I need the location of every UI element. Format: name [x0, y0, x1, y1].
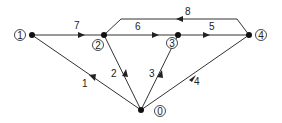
edge-4 — [141, 35, 249, 110]
node-2-label: 2 — [95, 40, 101, 51]
edge-5-label: 5 — [209, 21, 215, 32]
edge-4-label: 4 — [194, 76, 200, 87]
network-diagram: 1 2 3 4 0 7 6 5 8 1 2 3 4 — [0, 0, 282, 123]
node-4-label: 4 — [258, 30, 264, 41]
arrow-edge-6-icon — [152, 32, 159, 38]
edge-2 — [104, 35, 141, 110]
node-2-dot — [101, 32, 107, 38]
arrow-edge-7-icon — [78, 32, 85, 38]
node-0-label: 0 — [157, 106, 163, 117]
arrow-edge-8-icon — [176, 16, 183, 22]
edge-8-label: 8 — [185, 6, 191, 17]
node-0-dot — [138, 107, 144, 113]
node-3-dot — [175, 32, 181, 38]
node-1-label: 1 — [17, 30, 23, 41]
arrow-edge-1-icon — [89, 74, 96, 81]
edge-7-label: 7 — [74, 20, 80, 31]
arrow-edge-5-icon — [203, 32, 210, 38]
node-3-label: 3 — [169, 38, 175, 49]
node-1-dot — [29, 32, 35, 38]
edge-3-label: 3 — [149, 68, 155, 79]
edge-2-label: 2 — [111, 68, 117, 79]
node-4-dot — [246, 32, 252, 38]
edge-6-label: 6 — [135, 21, 141, 32]
edge-1-label: 1 — [82, 78, 88, 89]
